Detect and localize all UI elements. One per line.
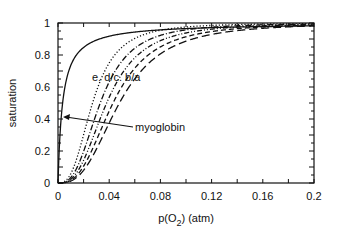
y-tick-label: 0.6 [35,81,50,93]
x-tick-label: 0.08 [150,190,171,202]
x-axis-label: p(O2) (atm) [158,212,214,228]
curve-d [58,24,314,183]
curve-b [58,25,314,183]
curve-e [58,24,314,183]
curve-myoglobin [58,26,314,183]
chart: 00.040.080.120.160.200.20.40.60.81satura… [0,0,339,242]
plot-area: 00.040.080.120.160.200.20.40.60.81satura… [0,0,339,242]
y-tick-label: 0.4 [35,113,50,125]
arrowhead-icon [63,114,70,120]
myoglobin-label: myoglobin [135,121,185,133]
y-tick-label: 0.8 [35,49,50,61]
x-tick-label: 0.2 [306,190,321,202]
x-tick-label: 0.12 [201,190,222,202]
myoglobin-arrow [66,117,133,127]
y-tick-label: 0 [44,177,50,189]
curve-a [58,26,314,183]
x-tick-label: 0.04 [98,190,119,202]
curve-c [58,25,314,183]
x-tick-label: 0 [55,190,61,202]
x-tick-label: 0.16 [252,190,273,202]
y-tick-label: 1 [44,17,50,29]
y-tick-label: 0.2 [35,145,50,157]
y-axis-label: saturation [6,79,18,127]
plot-frame [58,23,314,183]
curve-labels: e. d/c. b/a [92,71,141,83]
